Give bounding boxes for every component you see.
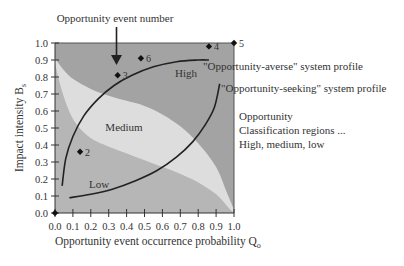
x-axis-title: Opportunity event occurrence probability… [55,235,261,250]
y-tick-label: 0.5 [35,123,48,134]
y-tick-label: 0.2 [35,174,48,185]
x-tick-label: 0.2 [84,221,97,232]
y-tick-label: 0.4 [35,140,49,151]
x-tick-label: 0.0 [48,221,61,232]
annotation-regions-line3: High, medium, low [239,138,325,150]
y-tick-label: 0.7 [35,89,48,100]
y-tick-label: 0.0 [35,208,48,219]
svg-text:3: 3 [123,70,128,81]
y-axis-title: Impact intensity Bs [13,84,28,172]
x-tick-label: 0.5 [138,221,151,232]
x-tick-label: 0.9 [210,221,223,232]
annotation-regions-line1: Opportunity [239,110,293,122]
region-label-high: High [175,67,198,79]
svg-text:4: 4 [214,41,219,52]
y-tick-label: 0.8 [35,72,48,83]
x-tick-label: 0.4 [120,221,134,232]
region-label-medium: Medium [105,121,143,133]
region-label-low: Low [89,178,109,190]
annotation-regions-line2: Classification regions ... [239,124,346,136]
y-tick-label: 0.1 [35,191,48,202]
svg-text:5: 5 [239,38,244,49]
y-tick-label: 1.0 [35,38,48,49]
annotation-seeking-profile: "Opportunity-seeking" system profile [221,82,387,94]
x-tick-label: 0.3 [102,221,115,232]
svg-text:6: 6 [146,53,151,64]
x-tick-label: 0.6 [156,221,169,232]
annotation-averse-profile: "Opportunity-averse" system profile [203,60,363,72]
y-tick-label: 0.9 [35,55,48,66]
annotation-event-number: Opportunity event number [57,12,174,24]
x-tick-label: 0.1 [66,221,79,232]
y-tick-label: 0.6 [35,106,48,117]
y-tick-label: 0.3 [35,157,48,168]
x-tick-label: 0.7 [174,221,187,232]
opportunity-classification-chart: 0.00.10.20.30.40.50.60.70.80.91.00.00.10… [0,0,404,266]
x-tick-label: 1.0 [227,221,240,232]
x-tick-label: 0.8 [192,221,205,232]
svg-text:2: 2 [85,147,90,158]
